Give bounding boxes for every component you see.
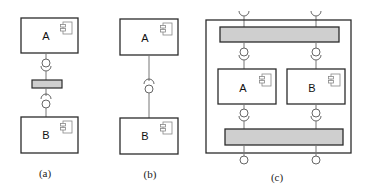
provided-interface-icon [145, 85, 153, 93]
upper-connector-bar [220, 27, 339, 42]
component-a-label: A [239, 82, 247, 94]
provided-interface-icon [42, 59, 50, 67]
panel-c-caption: (c) [271, 171, 284, 184]
provided-interface-icon [312, 156, 320, 164]
provided-interface-icon [312, 48, 320, 56]
component-diagram: A B (a) A B (b) [0, 0, 367, 192]
provided-interface-icon [240, 109, 248, 117]
component-b-label: B [141, 130, 148, 142]
component-b-label: B [308, 82, 315, 94]
panel-a: A B (a) [21, 18, 78, 180]
panel-a-caption: (a) [39, 167, 52, 180]
component-b-box [120, 118, 178, 154]
component-b-label: B [42, 129, 49, 141]
panel-b: A B (b) [120, 19, 178, 181]
provided-interface-icon [312, 109, 320, 117]
component-a-box [120, 19, 178, 55]
lower-connector-bar [225, 129, 343, 145]
connector-bar [32, 80, 62, 88]
provided-interface-icon [42, 100, 50, 108]
required-interface-icon [239, 11, 249, 16]
panel-c: A B (c) [206, 11, 351, 184]
component-a-label: A [141, 32, 149, 44]
provided-interface-icon [240, 48, 248, 56]
panel-b-caption: (b) [144, 168, 157, 181]
required-interface-icon [311, 11, 321, 16]
provided-interface-icon [240, 156, 248, 164]
component-a-label: A [42, 30, 50, 42]
